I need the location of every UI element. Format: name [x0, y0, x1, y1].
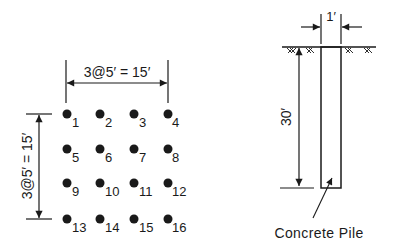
width-dimension: 1′ [301, 9, 362, 44]
pile-label: 4 [172, 115, 179, 130]
pile-label: 12 [172, 184, 186, 199]
pile-label: 5 [72, 150, 79, 165]
width-dimension-label: 1′ [326, 9, 336, 24]
horizontal-dimension-label: 3@5′ = 15′ [84, 64, 151, 80]
concrete-pile [321, 47, 341, 188]
pile-label: 16 [172, 220, 186, 235]
pile-label: 3 [139, 115, 146, 130]
pile-dot [130, 145, 139, 154]
vertical-dimension-label: 3@5′ = 15′ [19, 132, 35, 199]
vertical-dimension: 3@5′ = 15′ [19, 114, 52, 219]
soil-hatch-icon [287, 48, 372, 53]
pile-dot [63, 110, 72, 119]
pile-label: 11 [139, 184, 153, 199]
pile-dot [96, 110, 105, 119]
leader-arrow [313, 178, 332, 218]
pile-label: 9 [72, 184, 79, 199]
length-dimension: 30′ [278, 48, 314, 188]
pile-dot [130, 110, 139, 119]
pile-label: 2 [105, 115, 112, 130]
pile-grid: 1 2 3 4 5 6 7 8 9 10 11 12 [63, 110, 187, 236]
pile-dot [96, 215, 105, 224]
pile-label: 15 [139, 220, 153, 235]
pile-dot [96, 145, 105, 154]
pile-label: 14 [105, 220, 119, 235]
horizontal-dimension: 3@5′ = 15′ [66, 60, 168, 103]
pile-dot [63, 145, 72, 154]
pile-section: 1′ 30′ Concrete Pile [274, 9, 376, 241]
pile-dot [63, 179, 72, 188]
pile-label: Concrete Pile [274, 225, 363, 241]
pile-dot [130, 215, 139, 224]
pile-label: 10 [105, 184, 119, 199]
pile-dot [63, 215, 72, 224]
pile-diagram: 3@5′ = 15′ 3@5′ = 15′ 1 2 3 4 5 6 7 [0, 0, 398, 251]
length-dimension-label: 30′ [278, 108, 294, 127]
pile-group-plan: 3@5′ = 15′ 3@5′ = 15′ 1 2 3 4 5 6 7 [19, 60, 186, 235]
pile-dot [130, 179, 139, 188]
pile-label: 1 [72, 115, 79, 130]
pile-label: 8 [172, 150, 179, 165]
pile-label: 13 [72, 220, 86, 235]
ground-surface [282, 47, 376, 53]
pile-label: 7 [139, 150, 146, 165]
pile-label: 6 [105, 150, 112, 165]
pile-dot [96, 179, 105, 188]
